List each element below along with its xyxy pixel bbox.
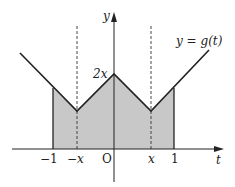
tick-label-neg-one: −1 [40, 152, 58, 166]
y-axis-arrow-icon [111, 12, 117, 22]
y-axis-label: y [102, 9, 110, 23]
origin-label: O [102, 152, 112, 166]
t-axis-arrow-icon [214, 146, 224, 152]
function-label: y = g(t) [175, 34, 223, 48]
function-graph: y t O 2x y = g(t) −1 −x x 1 [0, 0, 235, 187]
tick-label-x: x [148, 152, 155, 166]
t-axis-label: t [216, 153, 221, 167]
tick-label-neg-x: −x [67, 152, 84, 166]
tick-label-one: 1 [171, 152, 179, 166]
peak-label: 2x [92, 67, 108, 81]
